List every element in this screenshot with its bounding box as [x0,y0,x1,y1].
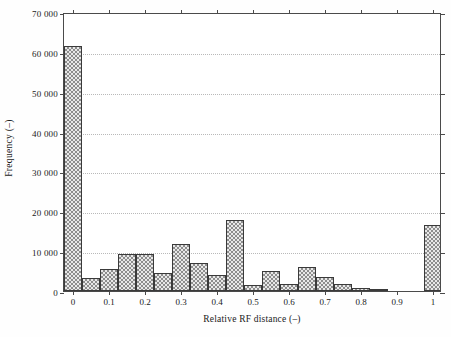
x-axis-tick-label: 0.4 [211,297,222,307]
y-axis-tick-mark-right [440,134,445,135]
histogram-bar [172,244,190,291]
x-axis-tick-mark [145,291,146,295]
gridline [64,173,440,174]
x-axis-tick-mark-top [397,10,398,14]
x-axis-title-text: Relative RF distance (–) [203,314,300,324]
y-axis-title-text: Frequency (–) [4,119,14,176]
histogram-bar [298,267,316,291]
x-axis-tick-label: 1 [431,297,436,307]
x-axis-title: Relative RF distance (–) [63,314,441,324]
x-axis-tick-mark-top [361,10,362,14]
x-axis-tick-mark [325,291,326,295]
y-axis-tick-mark [60,253,64,254]
gridline [64,134,440,135]
x-axis-tick-mark-top [433,10,434,14]
x-axis-tick-mark-top [253,10,254,14]
x-axis-tick-mark-top [217,10,218,14]
x-axis-tick-mark [397,291,398,295]
gridline [64,54,440,55]
y-axis-tick-mark [60,14,64,15]
y-axis-tick-mark [60,173,64,174]
gridline [64,213,440,214]
y-axis-tick-mark [60,134,64,135]
y-axis-tick-mark-right [440,94,445,95]
y-axis-tick-mark-right [440,253,445,254]
y-axis-tick-label: 0 [53,288,58,298]
x-axis-tick-label: 0.7 [319,297,330,307]
histogram-figure: Frequency (–) 010 00020 00030 00040 0005… [0,0,451,337]
x-axis-tick-mark [217,291,218,295]
x-axis-tick-label: 0.3 [175,297,186,307]
x-axis-tick-mark-top [109,10,110,14]
y-axis-tick-mark [60,293,64,294]
histogram-bar [64,46,82,291]
y-axis-tick-mark-right [440,54,445,55]
x-axis-tick-label: 0.9 [391,297,402,307]
histogram-bar [118,254,136,291]
y-axis-tick-label: 50 000 [32,89,58,99]
x-axis-tick-mark [181,291,182,295]
histogram-bar [136,254,154,291]
x-axis-tick-mark [73,291,74,295]
histogram-bar [82,278,100,291]
histogram-bar [154,273,172,291]
y-axis-tick-mark-right [440,173,445,174]
histogram-bar [424,225,440,291]
x-axis-tick-mark [289,291,290,295]
x-axis-tick-mark-top [181,10,182,14]
y-axis-tick-mark [60,213,64,214]
y-axis-tick-label: 60 000 [32,49,58,59]
x-axis-tick-label: 0 [71,297,76,307]
histogram-bar [316,277,334,291]
y-axis-tick-mark-right [440,213,445,214]
plot-area: 010 00020 00030 00040 00050 00060 00070 … [63,13,441,292]
y-axis-tick-label: 40 000 [32,129,58,139]
histogram-bar [100,269,118,291]
histogram-bar [190,263,208,291]
y-axis-tick-mark [60,54,64,55]
y-axis-tick-mark-right [440,293,445,294]
y-axis-title: Frequency (–) [0,0,18,295]
x-axis-tick-label: 0.2 [139,297,150,307]
y-axis-tick-mark-right [440,14,445,15]
x-axis-tick-mark-top [73,10,74,14]
y-axis-tick-label: 20 000 [32,208,58,218]
histogram-bar [226,220,244,291]
histogram-bar [262,271,280,291]
plot-inner [64,14,440,291]
x-axis-tick-mark-top [145,10,146,14]
x-axis-tick-mark [253,291,254,295]
histogram-bar [334,284,352,291]
x-axis-tick-mark-top [325,10,326,14]
y-axis-tick-label: 30 000 [32,168,58,178]
histogram-bar [370,289,388,291]
x-axis-tick-label: 0.1 [103,297,114,307]
x-axis-tick-mark [109,291,110,295]
x-axis-tick-label: 0.8 [355,297,366,307]
y-axis-tick-label: 10 000 [32,248,58,258]
x-axis-tick-label: 0.5 [247,297,258,307]
histogram-bar [280,284,298,291]
x-axis-tick-mark [361,291,362,295]
x-axis-tick-label: 0.6 [283,297,294,307]
gridline [64,94,440,95]
histogram-bar [208,275,226,291]
x-axis-tick-mark-top [289,10,290,14]
y-axis-tick-mark [60,94,64,95]
y-axis-tick-label: 70 000 [32,9,58,19]
x-axis-tick-mark [433,291,434,295]
